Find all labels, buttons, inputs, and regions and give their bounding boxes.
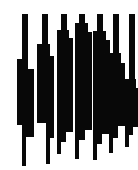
bar-segment [17, 69, 34, 125]
bar-segment [113, 14, 119, 53]
bar-segment [57, 132, 66, 142]
bar-segment [125, 88, 138, 127]
figure-canvas [0, 0, 138, 170]
bar-segment [125, 79, 136, 88]
bar-segment [37, 56, 54, 123]
bar-segment [109, 53, 121, 63]
bar-segment [75, 23, 88, 32]
bar-segment [37, 44, 50, 56]
bar-segment [17, 59, 28, 69]
bar-segment [46, 138, 50, 164]
bar-segment [109, 126, 118, 138]
bar-segment [57, 30, 69, 38]
bar-segment [93, 144, 97, 160]
bar-segment [79, 14, 85, 23]
bar-segment [22, 125, 34, 137]
bar-segment [109, 138, 113, 153]
bar-segment [125, 127, 133, 135]
bar-segment [22, 137, 26, 166]
bar-segment [22, 14, 28, 59]
bar-segment [125, 135, 129, 147]
bar-segment [129, 14, 135, 79]
bar-segment [61, 14, 67, 30]
abstract-bar-figure [0, 0, 138, 170]
bar-segment [46, 123, 54, 138]
bar-segment [75, 140, 79, 159]
bar-segment [75, 130, 85, 140]
bar-segment [93, 134, 102, 144]
bar-segment [75, 32, 92, 130]
bar-segment [57, 38, 73, 132]
bar-segment [109, 63, 125, 126]
bar-segment [97, 14, 103, 31]
bar-segment [42, 14, 48, 44]
bar-segment [57, 142, 61, 154]
bar-segment [93, 31, 106, 40]
bar-segment [93, 40, 110, 134]
